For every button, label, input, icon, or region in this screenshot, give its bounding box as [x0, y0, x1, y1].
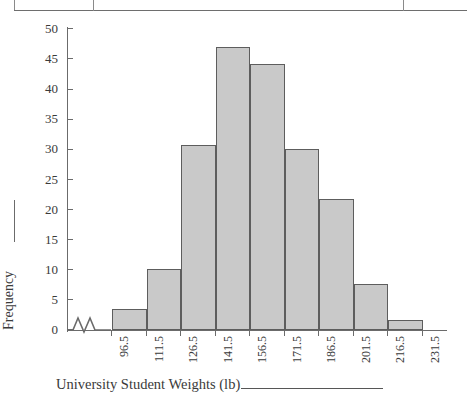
x-axis-tick: [353, 330, 354, 336]
y-axis-tick: [67, 119, 73, 120]
y-axis-tick: [67, 149, 73, 150]
histogram-bar: [216, 47, 251, 330]
y-axis-tick-label: 20: [28, 203, 58, 216]
histogram-bar: [319, 199, 354, 330]
x-axis-tick: [249, 330, 250, 336]
y-axis-title-group: Frequency: [2, 200, 26, 330]
y-axis-tick: [67, 89, 73, 90]
y-axis-title-rule: [14, 200, 15, 242]
histogram-bar: [147, 269, 182, 330]
y-axis-tick: [67, 28, 73, 29]
x-axis-tick-label: 156.5: [256, 336, 268, 363]
x-axis-tick: [387, 330, 388, 336]
x-axis-tick: [422, 330, 423, 336]
y-axis-tick-label: 0: [28, 323, 58, 336]
y-axis-tick-label: 5: [28, 293, 58, 306]
x-axis-tick-label: 96.5: [118, 336, 130, 357]
x-axis-title-rule: [241, 388, 383, 389]
y-axis-tick: [67, 239, 73, 240]
histogram-bar: [285, 149, 320, 330]
y-axis-tick-label: 10: [28, 263, 58, 276]
x-axis-tick-label: 126.5: [187, 336, 199, 363]
y-axis-tick-label: 25: [28, 173, 58, 186]
x-axis-tick: [180, 330, 181, 336]
x-axis-tick-label: 111.5: [153, 336, 165, 362]
histogram-plot-area: 05101520253035404550 96.5111.5126.5141.5…: [0, 0, 467, 401]
histogram-bar: [250, 64, 285, 330]
histogram-bar: [354, 284, 389, 330]
y-axis-tick-label: 45: [28, 52, 58, 65]
x-axis-tick-label: 186.5: [325, 336, 337, 363]
axis-break-icon: [66, 308, 112, 334]
x-axis-title: University Student Weights (lb): [56, 376, 240, 392]
x-axis-tick: [215, 330, 216, 336]
histogram-bar: [388, 320, 423, 330]
y-axis-tick: [67, 299, 73, 300]
y-axis-tick-label: 50: [28, 22, 58, 35]
x-axis-line: [67, 330, 447, 331]
y-axis-title: Frequency: [2, 271, 16, 330]
y-axis-tick: [67, 179, 73, 180]
y-axis-tick-label: 30: [28, 142, 58, 155]
histogram-page: 05101520253035404550 96.5111.5126.5141.5…: [0, 0, 467, 401]
y-axis-tick: [67, 58, 73, 59]
y-axis-tick-label: 40: [28, 82, 58, 95]
x-axis-tick: [284, 330, 285, 336]
x-axis-tick: [318, 330, 319, 336]
y-axis-tick-label: 35: [28, 112, 58, 125]
x-axis-tick-label: 216.5: [394, 336, 406, 363]
x-axis-tick: [146, 330, 147, 336]
y-axis-tick-label: 15: [28, 233, 58, 246]
histogram-bar: [112, 309, 147, 330]
x-axis-tick-label: 231.5: [429, 336, 441, 363]
y-axis-tick: [67, 269, 73, 270]
x-axis-tick-label: 201.5: [360, 336, 372, 363]
x-axis-tick-label: 141.5: [222, 336, 234, 363]
x-axis-tick-label: 171.5: [291, 336, 303, 363]
y-axis-tick: [67, 209, 73, 210]
histogram-bar: [181, 145, 216, 330]
